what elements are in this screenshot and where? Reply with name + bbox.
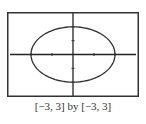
axes xyxy=(10,13,136,96)
plot-svg xyxy=(7,12,139,97)
window-caption: [−3, 3] by [−3, 3] xyxy=(0,100,146,112)
graph-window xyxy=(7,12,139,97)
